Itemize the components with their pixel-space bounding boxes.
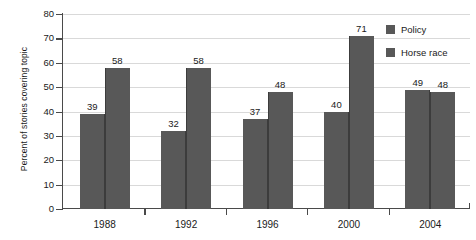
legend-label: Policy	[401, 24, 426, 35]
y-tick-label: 60	[14, 57, 54, 68]
chart-legend: PolicyHorse race	[386, 18, 447, 64]
y-tick-label: 10	[14, 179, 54, 190]
bar-chart: Percent of stories covering topic 010203…	[0, 0, 476, 240]
bar-policy-1996	[243, 119, 268, 209]
bar-horse-race-2004	[430, 92, 455, 209]
bar-value-label: 71	[344, 23, 378, 34]
bar-policy-1992	[161, 131, 186, 209]
y-tick-mark	[56, 136, 63, 137]
y-tick-mark	[56, 185, 63, 186]
y-tick-label: 70	[14, 32, 54, 43]
bar-policy-2000	[324, 112, 349, 210]
legend-item: Horse race	[386, 41, 447, 64]
bar-value-label: 39	[75, 101, 109, 112]
y-tick-label: 30	[14, 130, 54, 141]
y-tick-label: 40	[14, 106, 54, 117]
x-tick-label-1992: 1992	[151, 219, 221, 230]
y-tick-label: 0	[14, 203, 54, 214]
bar-policy-2004	[405, 90, 430, 209]
y-tick-mark	[56, 87, 63, 88]
bar-horse-race-1992	[186, 68, 211, 209]
y-tick-mark	[56, 38, 63, 39]
y-tick-label: 20	[14, 154, 54, 165]
bar-value-label: 48	[263, 79, 297, 90]
y-tick-label: 50	[14, 81, 54, 92]
bar-policy-1988	[80, 114, 105, 209]
legend-item: Policy	[386, 18, 447, 41]
legend-swatch-icon	[386, 48, 395, 57]
y-tick-mark	[56, 63, 63, 64]
bar-horse-race-2000	[349, 36, 374, 209]
bar-horse-race-1988	[105, 68, 130, 209]
bar-value-label: 40	[319, 99, 353, 110]
x-tick-label-2000: 2000	[314, 219, 384, 230]
bar-value-label: 48	[426, 79, 460, 90]
x-tick-label-1996: 1996	[233, 219, 303, 230]
legend-swatch-icon	[386, 25, 395, 34]
legend-label: Horse race	[401, 47, 447, 58]
x-tick-mark	[307, 209, 308, 215]
bar-value-label: 37	[238, 106, 272, 117]
bar-value-label: 32	[157, 118, 191, 129]
gridline	[63, 14, 470, 15]
x-tick-mark	[144, 209, 145, 215]
x-tick-label-2004: 2004	[395, 219, 465, 230]
y-tick-mark	[56, 14, 63, 15]
x-tick-mark	[389, 209, 390, 215]
bar-value-label: 58	[182, 55, 216, 66]
x-tick-mark	[226, 209, 227, 215]
y-tick-mark	[56, 209, 63, 210]
y-tick-mark	[56, 160, 63, 161]
x-tick-label-1988: 1988	[70, 219, 140, 230]
y-tick-mark	[56, 112, 63, 113]
y-tick-label: 80	[14, 8, 54, 19]
bar-value-label: 58	[100, 55, 134, 66]
